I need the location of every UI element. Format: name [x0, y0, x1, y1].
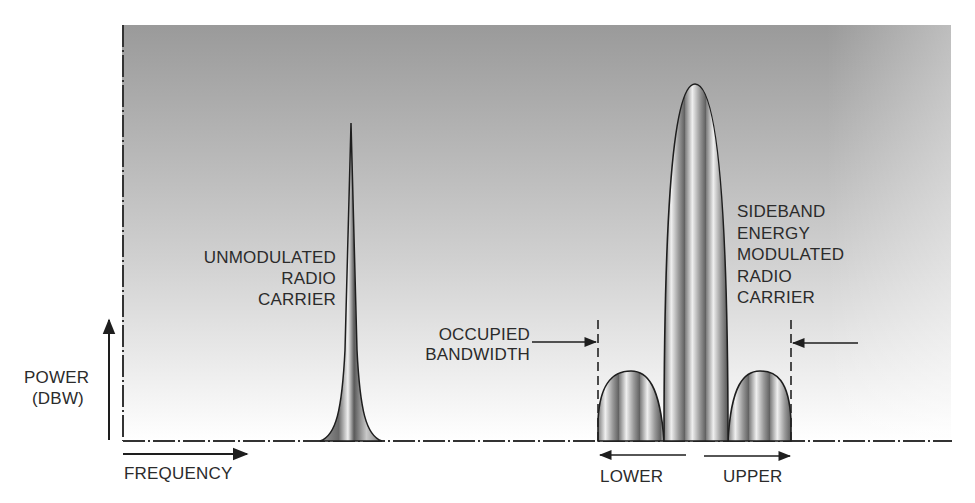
occupied-bandwidth-label: OCCUPIED BANDWIDTH — [400, 325, 530, 365]
unmodulated-label-line3: CARRIER — [150, 289, 336, 310]
occupied-label-line2: BANDWIDTH — [400, 345, 530, 365]
modulated-label-line1: SIDEBAND — [737, 201, 844, 223]
lower-sideband-label: LOWER — [600, 467, 663, 487]
modulated-carrier-label: SIDEBAND ENERGY MODULATED RADIO CARRIER — [737, 201, 844, 309]
modulated-label-line2: ENERGY — [737, 223, 844, 245]
modulated-label-line4: RADIO — [737, 266, 844, 288]
unmodulated-label-line1: UNMODULATED — [150, 247, 336, 268]
y-axis-label-line1: POWER — [24, 367, 89, 388]
y-axis-label-line2: (DBW) — [24, 388, 89, 409]
occupied-label-line1: OCCUPIED — [400, 325, 530, 345]
y-axis-label: POWER (DBW) — [24, 367, 89, 409]
modulated-label-line3: MODULATED — [737, 244, 844, 266]
unmodulated-label-line2: RADIO — [150, 268, 336, 289]
modulated-label-line5: CARRIER — [737, 287, 844, 309]
x-axis-label: FREQUENCY — [124, 464, 233, 484]
diagram-stage: POWER (DBW) FREQUENCY UNMODULATED RADIO … — [0, 0, 975, 503]
unmodulated-carrier-label: UNMODULATED RADIO CARRIER — [150, 247, 336, 310]
upper-sideband-label: UPPER — [723, 467, 783, 487]
